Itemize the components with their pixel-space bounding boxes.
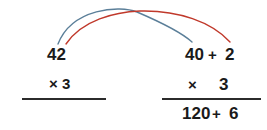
- right-factor-tens: 40: [185, 46, 204, 63]
- left-horizontal-rule: [22, 98, 106, 100]
- right-multiplier: 3: [219, 76, 228, 93]
- left-factor: 42: [47, 46, 66, 63]
- right-multiplier-sign: ×: [188, 77, 197, 92]
- right-factor-ones: 2: [225, 46, 234, 63]
- tens-arc: [58, 9, 192, 44]
- product-tens: 120: [182, 105, 210, 122]
- product-plus-sign: +: [212, 106, 221, 121]
- ones-arc: [66, 11, 230, 44]
- partial-products-figure: 42 × 3 40 + 2 × 3 120 + 6: [0, 0, 267, 130]
- arc-layer: [0, 0, 267, 130]
- left-multiplier-line: × 3: [49, 76, 70, 91]
- product-ones: 6: [229, 105, 238, 122]
- right-horizontal-rule: [162, 98, 261, 100]
- right-plus-sign: +: [208, 47, 217, 62]
